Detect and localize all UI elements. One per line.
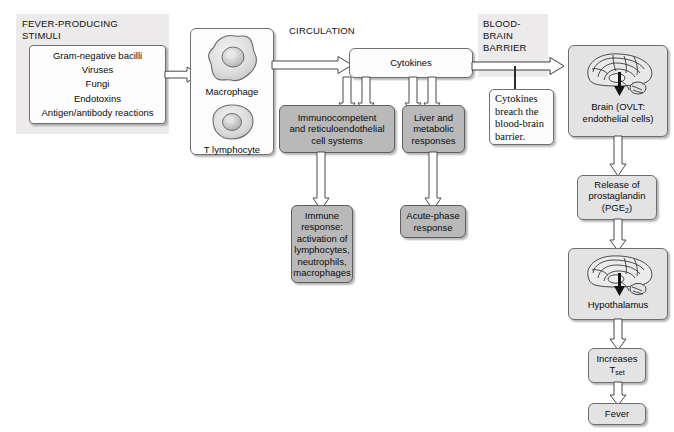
prostaglandin-label: Release of prostaglandin (PGE2) [588,179,645,217]
immune-response-box: Immune response: activation of lymphocyt… [291,205,353,283]
stimuli-heading: FEVER-PRODUCING STIMULI [22,18,162,42]
acute-phase-label: Acute-phase response [406,210,459,233]
immune-response-label: Immune response: activation of lymphocyt… [293,210,351,279]
arrow-cells-to-cytokines [272,56,354,74]
cytokines-box: Cytokines [349,48,473,78]
fever-box: Fever [588,403,646,425]
macrophage-label: Macrophage [191,86,273,98]
prostaglandin-line2: prostaglandin [588,190,645,201]
liver-metabolic-box: Liver and metabolic responses [402,105,465,153]
increases-line1: Increases [596,353,637,364]
brain-ovlt-label: Brain (OVLT: endothelial cells) [569,101,667,125]
prostaglandin-line3: (PGE [602,202,625,213]
t-lymphocyte-cell-icon [207,102,259,144]
prostaglandin-line1: Release of [594,179,639,190]
brain-ovlt-box: Brain (OVLT: endothelial cells) [568,45,668,137]
fever-label: Fever [605,408,629,420]
stimuli-list: Gram-negative bacilli Viruses Fungi Endo… [42,49,154,120]
brain-sagittal-icon [580,50,658,98]
increases-tset-label: Increases Tset [596,353,637,379]
hypothalamus-label: Hypothalamus [569,299,667,311]
brain-sagittal-hypothalamus-icon [580,252,658,297]
cytokines-breach-callout: Cytokines breach the blood-brain barrier… [489,89,554,145]
immune-cells-box: Macrophage [190,28,274,155]
macrophage-cell-icon [204,33,262,85]
arrow-liver-to-acute-phase [424,152,442,212]
fever-pathogenesis-diagram: FEVER-PRODUCING STIMULI CIRCULATION BLOO… [0,0,674,432]
tset-subscript: set [615,369,624,376]
immunocompetent-label: Immunocompetent and reticuloendothelial … [289,112,384,147]
blood-brain-barrier-heading: BLOOD- BRAIN BARRIER [483,18,547,54]
prostaglandin-line3-end: ) [629,202,632,213]
t-lymphocyte-label: T lymphocyte [191,144,273,156]
increases-tset-box: Increases Tset [588,348,646,383]
prostaglandin-release-box: Release of prostaglandin (PGE2) [577,175,657,220]
arrow-brain-to-prostaglandin [609,136,627,178]
arrow-cytokines-to-brain [472,57,566,75]
fever-producing-stimuli-box: Gram-negative bacilli Viruses Fungi Endo… [29,45,166,124]
hypothalamus-box: Hypothalamus [568,248,668,320]
immunocompetent-systems-box: Immunocompetent and reticuloendothelial … [279,105,395,153]
cytokines-label: Cytokines [390,57,432,69]
liver-label: Liver and metabolic responses [412,112,456,147]
callout-leader-line [514,66,516,91]
circulation-heading: CIRCULATION [289,25,399,37]
acute-phase-response-box: Acute-phase response [400,205,466,238]
arrow-immunocompetent-to-immune-response [312,152,330,212]
